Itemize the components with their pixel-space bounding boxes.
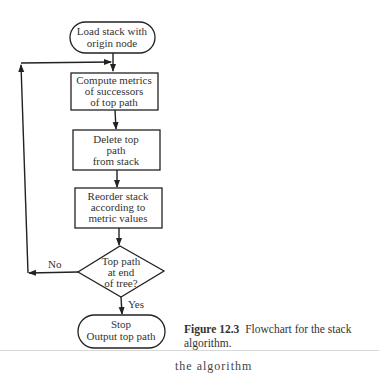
arrow-no-up [21, 65, 28, 273]
section-rule [0, 350, 379, 351]
compute-metrics-box: Compute metrics of successors of top pat… [71, 73, 158, 110]
reorder-stack-box: Reorder stack according to metric values [75, 188, 162, 228]
start-text-1: Load stack with [77, 25, 148, 37]
body-text-cutoff: the algorithm [175, 359, 252, 374]
no-label: No [48, 258, 62, 270]
compute-text-3: of top path [90, 96, 138, 108]
figure-number: Figure 12.3 [184, 323, 239, 335]
yes-label: Yes [128, 298, 144, 310]
arrow-yes-down [121, 297, 122, 314]
delete-text-3: from stack [93, 155, 140, 167]
arrow-compute-to-delete [115, 110, 116, 129]
arrow-no-return [21, 62, 111, 63]
delete-top-path-box: Delete top path from stack [73, 130, 160, 170]
arrow-no-left [29, 272, 78, 273]
start-text-2: origin node [87, 37, 138, 49]
decision-text-3: of tree? [104, 277, 137, 289]
stop-text-2: Output top path [86, 330, 156, 342]
decision-diamond: Top path at end of tree? [78, 246, 164, 297]
stop-text-1: Stop [111, 318, 132, 330]
stop-terminal: Stop Output top path [78, 315, 165, 348]
start-terminal: Load stack with origin node [70, 22, 155, 53]
reorder-text-3: metric values [89, 212, 148, 224]
figure-caption: Figure 12.3 Flowchart for the stack algo… [184, 322, 374, 350]
